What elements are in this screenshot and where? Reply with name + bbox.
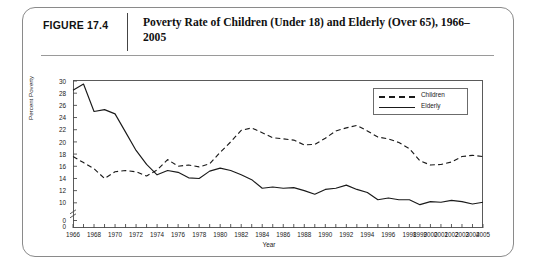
- x-tick-label: 1966: [62, 231, 84, 238]
- figure-number-label: FIGURE 17.4: [43, 19, 108, 31]
- figure-card: FIGURE 17.4 Poverty Rate of Children (Un…: [22, 7, 514, 257]
- chart-legend: Children Elderly: [373, 88, 468, 115]
- legend-label-children: Children: [421, 91, 445, 98]
- x-tick-label: 1984: [251, 231, 273, 238]
- legend-swatch-solid-icon: [379, 107, 415, 108]
- y-tick-label: 10: [53, 199, 66, 206]
- x-tick-label: 1986: [272, 231, 294, 238]
- y-tick-label: 26: [53, 102, 66, 109]
- legend-swatch-dashed-icon: [379, 96, 415, 98]
- x-tick-label: 1992: [335, 231, 357, 238]
- x-tick-label: 1972: [125, 231, 147, 238]
- x-tick-label: 1976: [167, 231, 189, 238]
- x-tick-label: 1974: [146, 231, 168, 238]
- series-line-children: [73, 125, 483, 178]
- chart-plot-area: Percent Poverty 101214161820222426283000…: [41, 68, 497, 243]
- header-rule: [41, 55, 494, 56]
- x-tick-label: 1988: [293, 231, 315, 238]
- figure-header: FIGURE 17.4 Poverty Rate of Children (Un…: [23, 8, 513, 55]
- x-tick-label: 1978: [188, 231, 210, 238]
- legend-entry-elderly: Elderly: [379, 103, 465, 113]
- y-tick-label: 24: [53, 114, 66, 121]
- y-tick-label: 22: [53, 126, 66, 133]
- y-tick-label: 28: [53, 90, 66, 97]
- x-tick-label: 1968: [83, 231, 105, 238]
- y-tick-label: 0: [53, 223, 66, 230]
- x-tick-label: 2005: [472, 231, 494, 238]
- x-tick-label: 1996: [377, 231, 399, 238]
- y-axis-title: Percent Poverty: [27, 76, 34, 120]
- x-tick-label: 1994: [356, 231, 378, 238]
- y-tick-label: 18: [53, 151, 66, 158]
- x-tick-label: 1990: [314, 231, 336, 238]
- y-axis-break-marker: [70, 210, 76, 218]
- x-tick-label: 1980: [209, 231, 231, 238]
- header-divider: [127, 13, 128, 51]
- x-tick-label: 1970: [104, 231, 126, 238]
- figure-title: Poverty Rate of Children (Under 18) and …: [143, 16, 488, 45]
- x-tick-label: 1982: [230, 231, 252, 238]
- legend-entry-children: Children: [379, 92, 465, 102]
- y-tick-label: 14: [53, 175, 66, 182]
- y-tick-label: 16: [53, 163, 66, 170]
- legend-label-elderly: Elderly: [421, 102, 441, 109]
- x-axis-title: Year: [41, 241, 497, 248]
- y-tick-label: 30: [53, 78, 66, 85]
- y-tick-label: 12: [53, 187, 66, 194]
- y-tick-label: 20: [53, 139, 66, 146]
